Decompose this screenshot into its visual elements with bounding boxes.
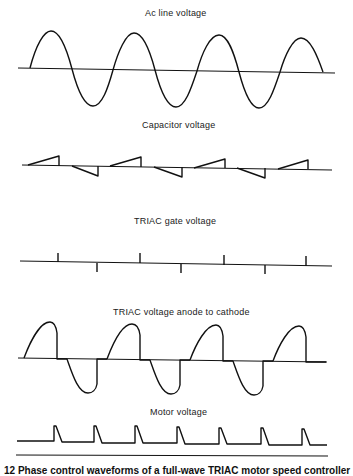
ac-line-waveform (18, 31, 335, 108)
figure-caption: 12 Phase control waveforms of a full-wav… (4, 465, 350, 476)
motor-waveform (16, 426, 328, 456)
capacitor-waveform (22, 156, 332, 178)
triac-gate-waveform (20, 253, 332, 274)
triac-anode-waveform (18, 322, 327, 395)
